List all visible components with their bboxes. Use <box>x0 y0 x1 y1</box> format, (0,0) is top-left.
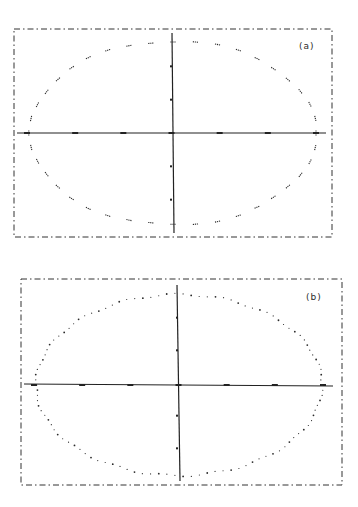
data-point <box>51 424 52 425</box>
data-point <box>315 116 316 121</box>
data-point <box>105 462 106 463</box>
data-point <box>158 295 159 296</box>
data-point <box>273 315 274 316</box>
data-point <box>58 336 59 337</box>
data-point <box>320 374 322 376</box>
data-point <box>74 445 76 447</box>
data-point <box>134 471 136 473</box>
data-point <box>49 344 51 346</box>
data-point <box>312 354 313 355</box>
data-point <box>237 302 239 304</box>
data-point <box>37 395 38 396</box>
data-point <box>90 457 92 459</box>
x-tick <box>272 384 278 386</box>
data-point <box>105 49 110 51</box>
data-point <box>317 405 318 406</box>
data-point <box>309 102 311 107</box>
data-point <box>57 434 59 436</box>
data-point <box>134 298 135 299</box>
x-tick <box>79 384 85 386</box>
data-point <box>238 468 239 469</box>
data-point <box>199 474 200 475</box>
panel-b <box>21 279 342 485</box>
data-point <box>308 425 309 426</box>
data-point <box>255 206 260 208</box>
x-tick <box>320 384 326 386</box>
data-point <box>174 293 175 294</box>
data-point <box>299 173 302 177</box>
data-point <box>38 405 40 407</box>
data-point <box>85 453 86 454</box>
data-point <box>54 429 55 430</box>
data-point <box>284 446 285 447</box>
data-point <box>231 299 232 300</box>
x-tick <box>127 384 133 386</box>
data-point <box>320 379 321 380</box>
data-point <box>259 309 261 311</box>
x-tick <box>120 132 126 134</box>
data-point <box>279 450 280 451</box>
data-point <box>278 319 280 321</box>
data-point <box>45 172 48 176</box>
data-point <box>252 307 253 308</box>
data-point <box>62 438 63 439</box>
x-tick <box>224 384 230 386</box>
data-point <box>47 419 49 421</box>
data-point <box>98 310 100 312</box>
data-point <box>126 299 127 300</box>
data-point <box>313 414 315 416</box>
data-point <box>45 354 46 355</box>
data-point <box>79 449 80 450</box>
data-point <box>78 318 80 320</box>
data-point <box>230 469 232 471</box>
data-point <box>68 442 69 443</box>
data-point <box>53 339 54 340</box>
data-point <box>193 42 198 43</box>
data-point <box>283 324 284 325</box>
figure-canvas <box>0 0 358 507</box>
data-point <box>309 159 311 164</box>
data-point <box>306 344 308 346</box>
data-point <box>321 384 323 386</box>
data-point <box>207 296 208 297</box>
data-point <box>56 185 60 188</box>
data-point <box>299 89 302 93</box>
data-point <box>45 90 48 94</box>
data-point <box>36 159 38 164</box>
data-point <box>69 197 73 200</box>
data-point <box>97 460 98 461</box>
data-point <box>37 389 39 391</box>
data-point <box>222 470 223 471</box>
data-point <box>293 437 294 438</box>
data-point <box>252 461 254 463</box>
data-point <box>112 463 114 465</box>
data-point <box>311 420 312 421</box>
data-point <box>112 304 113 305</box>
data-point <box>174 475 175 476</box>
y-tick <box>170 99 172 101</box>
data-point <box>215 44 220 45</box>
data-point <box>272 453 274 455</box>
data-point <box>288 328 289 329</box>
data-point <box>294 331 296 333</box>
data-point <box>119 466 120 467</box>
data-point <box>182 293 183 294</box>
data-point <box>236 49 241 51</box>
data-point <box>36 384 37 385</box>
data-point <box>36 102 38 107</box>
y-tick <box>176 415 178 417</box>
data-point <box>31 145 32 150</box>
data-point <box>42 359 44 361</box>
data-point <box>44 415 45 416</box>
data-point <box>223 297 224 298</box>
data-point <box>105 308 106 309</box>
data-point <box>265 456 266 457</box>
data-point <box>309 350 310 351</box>
data-point <box>319 364 320 365</box>
data-point <box>68 328 69 329</box>
x-tick <box>31 384 37 386</box>
data-point <box>46 349 47 350</box>
x-tick <box>265 132 271 134</box>
data-point <box>35 379 36 380</box>
data-point <box>199 296 200 297</box>
